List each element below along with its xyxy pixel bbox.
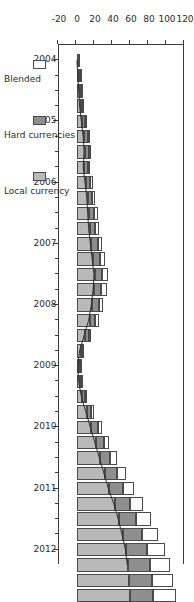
legend-label: Local currency [5,186,75,196]
time-tick-label: 2012 [30,544,60,554]
time-tick [55,228,58,229]
time-tick-label: 2008 [30,299,60,309]
legend-item-local[interactable]: Local currency [33,172,46,226]
time-tick [55,212,58,213]
value-tick [75,40,76,44]
time-tick [55,258,58,259]
time-tick [55,319,58,320]
time-tick [55,105,58,106]
bar-segment-blend [153,589,176,602]
value-tick [183,40,184,44]
time-tick-label: 2007 [30,238,60,248]
bar-segment-local [77,574,129,587]
legend-item-hard[interactable]: Hard currencies [33,116,46,170]
value-tick [93,40,94,44]
time-tick [55,151,58,152]
time-tick [55,335,58,336]
value-tick [165,40,166,44]
time-tick-label: 2010 [30,421,60,431]
time-tick [55,518,58,519]
time-tick [55,197,58,198]
time-tick [55,533,58,534]
time-tick-label: 2009 [30,360,60,370]
series-boundary-line [58,45,184,565]
value-tick [111,40,112,44]
chart-legend: BlendedHard currenciesLocal currency [33,60,46,226]
legend-label: Blended [5,74,75,84]
time-tick [55,273,58,274]
time-tick [55,503,58,504]
bar-segment-hard [130,589,153,602]
time-tick-label: 2011 [30,483,60,493]
bar-segment-hard [129,574,152,587]
bar-segment-blend [152,574,174,587]
legend-swatch-icon [33,60,46,69]
plot-area [58,44,184,564]
value-tick-label: -20 [40,14,78,24]
time-tick [55,90,58,91]
value-tick [57,40,58,44]
time-tick [55,166,58,167]
legend-swatch-icon [33,116,46,125]
legend-item-blend[interactable]: Blended [33,60,46,114]
bar-2012Q4 [59,589,185,602]
bar-segment-local [77,589,130,602]
time-tick [55,411,58,412]
time-tick [55,380,58,381]
legend-swatch-icon [33,172,46,181]
value-tick [129,40,130,44]
bar-2012Q3 [59,574,185,587]
time-tick [55,396,58,397]
time-tick [55,457,58,458]
time-tick [55,472,58,473]
time-tick [55,350,58,351]
time-tick [55,289,58,290]
value-tick [147,40,148,44]
legend-label: Hard currencies [5,130,75,140]
time-tick [55,442,58,443]
